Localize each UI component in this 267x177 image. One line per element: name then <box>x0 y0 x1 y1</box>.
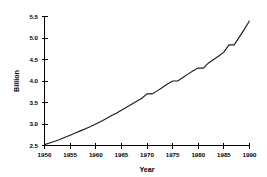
y-tick-label-3.0: 3.0 <box>29 120 38 127</box>
x-tick-label-1985: 1985 <box>217 151 231 158</box>
y-tick-label-5.0: 5.0 <box>29 34 38 41</box>
chart-container: 5.5 5.0 4.5 4.0 3.5 3.0 2.5 1950 1955 19… <box>0 0 267 177</box>
x-tick-label-1980: 1980 <box>191 151 205 158</box>
population-line-chart: 5.5 5.0 4.5 4.0 3.5 3.0 2.5 1950 1955 19… <box>0 0 267 177</box>
x-tick-label-1960: 1960 <box>89 151 103 158</box>
y-tick-label-3.5: 3.5 <box>29 99 38 106</box>
x-tick-label-1990: 1990 <box>243 151 257 158</box>
y-tick-label-4.5: 4.5 <box>29 56 38 63</box>
y-tick-label-4.0: 4.0 <box>29 77 38 84</box>
x-tick-label-1975: 1975 <box>166 151 180 158</box>
x-tick-label-1950: 1950 <box>38 151 52 158</box>
x-tick-label-1955: 1955 <box>63 151 77 158</box>
y-tick-label-2.5: 2.5 <box>29 142 38 149</box>
x-axis-tick-labels: 1950 1955 1960 1965 1970 1975 1980 1985 … <box>38 151 257 158</box>
x-tick-label-1970: 1970 <box>140 151 154 158</box>
population-data-line <box>45 21 250 145</box>
y-axis-title: Billion <box>12 70 21 92</box>
y-tick-label-5.5: 5.5 <box>29 13 38 20</box>
x-tick-label-1965: 1965 <box>115 151 129 158</box>
y-axis-tick-labels: 5.5 5.0 4.5 4.0 3.5 3.0 2.5 <box>29 13 38 149</box>
x-axis-title: Year <box>139 165 154 174</box>
